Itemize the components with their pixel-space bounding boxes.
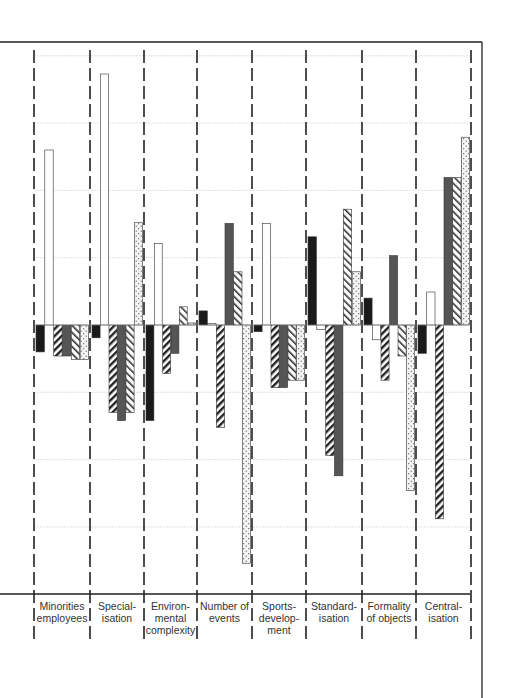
bar-solid-black [364,298,372,325]
bar-white [154,244,162,325]
category-label: Minorities employees [35,600,89,624]
bar-solid-black [36,325,44,352]
bar-white [373,325,381,340]
bar-white [317,325,325,330]
bar-solid-black [199,311,207,325]
category-label: Standard- isation [307,600,361,624]
bar-hatch-forward [163,325,171,374]
bar-hatch-back [343,209,351,325]
bar-hatch-back [453,178,461,325]
category-label: Number of events [198,600,251,624]
bar-dotted [135,223,143,325]
bar-dotted [407,325,415,491]
bar-hatch-back [126,325,134,413]
bar-solid-black [254,325,262,332]
bar-hatch-forward [109,325,117,413]
bar-dark-gray [444,178,452,325]
bar-dark-gray [63,325,71,356]
bar-hatch-back [288,325,296,380]
bar-hatch-forward [216,325,224,427]
bar-white [101,74,109,325]
bar-hatch-forward [326,325,334,456]
bar-hatch-forward [435,325,443,519]
bar-dotted [297,325,305,380]
bar-white [45,150,53,325]
bar-dark-gray [390,256,398,325]
category-label: Sports- develop- ment [253,600,305,636]
bar-dotted [80,325,88,359]
bar-solid-black [308,237,316,325]
bar-solid-black [92,325,100,338]
bar-hatch-back [398,325,406,356]
bar-hatch-back [71,325,79,359]
bar-hatch-forward [381,325,389,380]
bar-dark-gray [118,325,126,421]
bar-dark-gray [280,325,288,388]
bar-dotted [461,137,469,325]
bar-dark-gray [225,223,233,325]
bar-dotted [352,272,360,325]
category-label: Formality of objects [363,600,415,624]
category-label: Special- isation [91,600,143,624]
bar-dark-gray [335,325,343,476]
bar-dark-gray [171,325,179,353]
bar-white [263,223,271,325]
bar-solid-black [146,325,154,421]
category-label: Environ- mental complexity [145,600,196,636]
bar-white [427,292,435,325]
category-label: Central- isation [417,600,470,624]
bar-chart [0,0,505,698]
bar-dotted [242,325,250,563]
bar-hatch-back [234,272,242,325]
bar-hatch-forward [271,325,279,388]
bar-solid-black [418,325,426,353]
bar-hatch-forward [54,325,62,356]
bar-hatch-back [179,307,187,325]
